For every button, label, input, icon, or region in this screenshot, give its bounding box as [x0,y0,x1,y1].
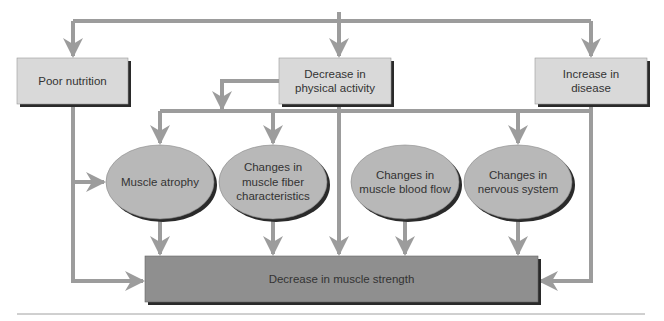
outcome-decrease-muscle-strength: Decrease in muscle strength [145,256,538,302]
top-distribution-line [73,12,591,56]
mechanism-muscle-fiber-changes: Changes in muscle fiber characteristics [219,145,327,219]
mechanism-muscle-atrophy: Muscle atrophy [106,145,214,219]
mechanism-nervous-system-changes: Changes in nervous system [464,145,572,219]
cause-poor-nutrition: Poor nutrition [17,58,128,104]
mechanism-blood-flow-changes: Changes in muscle blood flow [351,145,459,219]
cause-increase-disease: Increase in disease [535,58,647,104]
cause-decrease-physical-activity: Decrease in physical activity [279,58,391,104]
